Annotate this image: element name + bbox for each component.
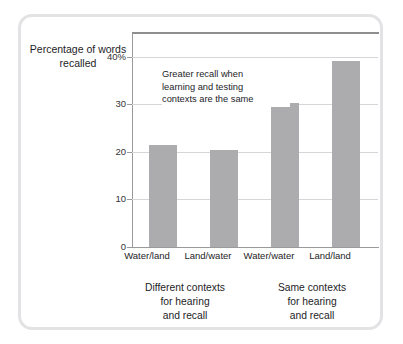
x-tick-label-land-land: Land/land bbox=[294, 251, 366, 261]
chart-annotation: Greater recall when learning and testing… bbox=[162, 67, 290, 107]
y-tick-mark-40 bbox=[127, 57, 132, 58]
group-caption-0-line-3: and recall bbox=[124, 309, 246, 323]
chart-annotation-line-2: learning and testing bbox=[162, 81, 287, 94]
group-caption-0-line-2: for hearing bbox=[124, 295, 246, 309]
y-tick-label-20: 20 bbox=[115, 147, 126, 157]
y-tick-mark-10 bbox=[127, 199, 132, 200]
y-tick-label-40: 40% bbox=[107, 52, 126, 62]
gridline-40 bbox=[132, 57, 378, 58]
plot-area bbox=[132, 33, 378, 247]
bar-land-water bbox=[210, 150, 238, 247]
bar-water-land bbox=[149, 145, 177, 247]
chart-annotation-line-3: contexts are the same bbox=[162, 93, 287, 106]
bar-land-land bbox=[332, 61, 360, 247]
y-axis-tick-labels: 0 10 20 30 40% bbox=[92, 33, 126, 247]
group-caption-0-line-1: Different contexts bbox=[124, 281, 246, 295]
y-tick-mark-20 bbox=[127, 152, 132, 153]
y-tick-label-30: 30 bbox=[115, 100, 126, 110]
y-axis-title-line-1: Percentage of bbox=[30, 43, 95, 55]
group-caption-1-line-2: for hearing bbox=[254, 295, 370, 309]
chart-annotation-line-1: Greater recall when bbox=[162, 68, 287, 81]
x-axis-line bbox=[132, 247, 379, 248]
y-tick-label-10: 10 bbox=[115, 195, 126, 205]
group-caption-1-line-1: Same contexts bbox=[254, 281, 370, 295]
chart-figure: Percentage of words recalled 0 10 20 30 … bbox=[0, 0, 403, 344]
group-caption-different-contexts: Different contexts for hearing and recal… bbox=[124, 281, 246, 324]
y-tick-mark-30 bbox=[127, 104, 132, 105]
y-tick-mark-0 bbox=[127, 247, 132, 248]
group-caption-same-contexts: Same contexts for hearing and recall bbox=[254, 281, 370, 324]
bar-water-water bbox=[271, 103, 299, 247]
group-caption-1-line-3: and recall bbox=[254, 309, 370, 323]
